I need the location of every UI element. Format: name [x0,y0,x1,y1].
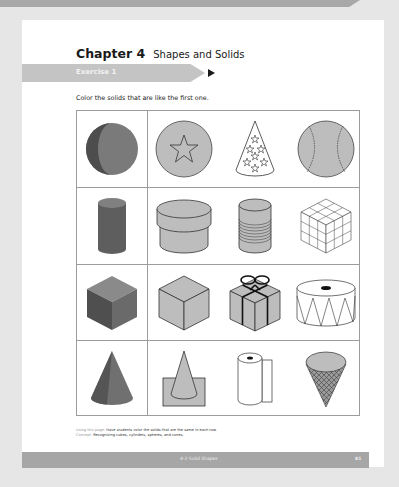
shapes-grid [76,110,360,416]
option-baseball[interactable] [290,111,361,187]
row-cones [77,341,359,417]
reference-cone[interactable] [77,341,147,417]
option-cone-on-base[interactable] [148,341,219,417]
section-label: 4-2 Solid Shapes [180,456,218,461]
rubiks-cube-icon [299,197,353,255]
exercise-label: Exercise 1 [76,68,116,76]
cone-icon [89,350,135,408]
option-ball-with-star[interactable] [148,111,219,187]
sphere-icon [85,122,139,176]
row-cubes [77,265,359,341]
footnote-lead-1: Using this page: [76,428,105,432]
cube-icon [85,274,139,332]
option-gift-box[interactable] [219,265,290,340]
cone-on-base-icon [161,350,207,408]
box-cube-icon [157,274,211,332]
option-paper-towel-roll[interactable] [219,341,290,417]
row-cylinders [77,188,359,265]
top-banner [0,0,360,7]
option-drum[interactable] [290,265,361,340]
footnote-text-1: Have students color the solids that are … [106,428,216,432]
footnote-lead-2: Concept: [76,433,92,437]
option-box-cube[interactable] [148,265,219,340]
instruction-text: Color the solids that are like the first… [76,94,209,102]
footnote-text-2: Recognizing cubes, cylinders, spheres, a… [93,433,183,437]
option-tin-can[interactable] [219,188,290,264]
option-ice-cream-cone[interactable] [290,341,361,417]
arrow-right-icon [208,69,215,77]
drum-icon [295,278,357,328]
option-round-box[interactable] [148,188,219,264]
teacher-footnote: Using this page: Have students color the… [76,428,217,438]
baseball-icon [297,120,355,178]
chapter-heading: Chapter 4 Shapes and Solids [76,43,245,62]
tin-can-icon [237,197,273,255]
party-hat-icon [234,120,276,178]
cylinder-icon [97,197,127,255]
chapter-number: Chapter 4 [76,46,145,61]
ice-cream-cone-icon [304,350,348,408]
ball-star-icon [155,120,213,178]
row-spheres [77,111,359,188]
round-box-icon [155,197,213,255]
page-number: 81 [355,456,361,461]
option-rubiks-cube[interactable] [290,188,361,264]
gift-box-icon [228,273,282,333]
reference-cylinder[interactable] [77,188,147,264]
reference-sphere[interactable] [77,111,147,187]
chapter-title: Shapes and Solids [153,49,244,60]
paper-towel-roll-icon [236,350,274,408]
reference-cube[interactable] [77,265,147,340]
option-party-hat-cone[interactable] [219,111,290,187]
